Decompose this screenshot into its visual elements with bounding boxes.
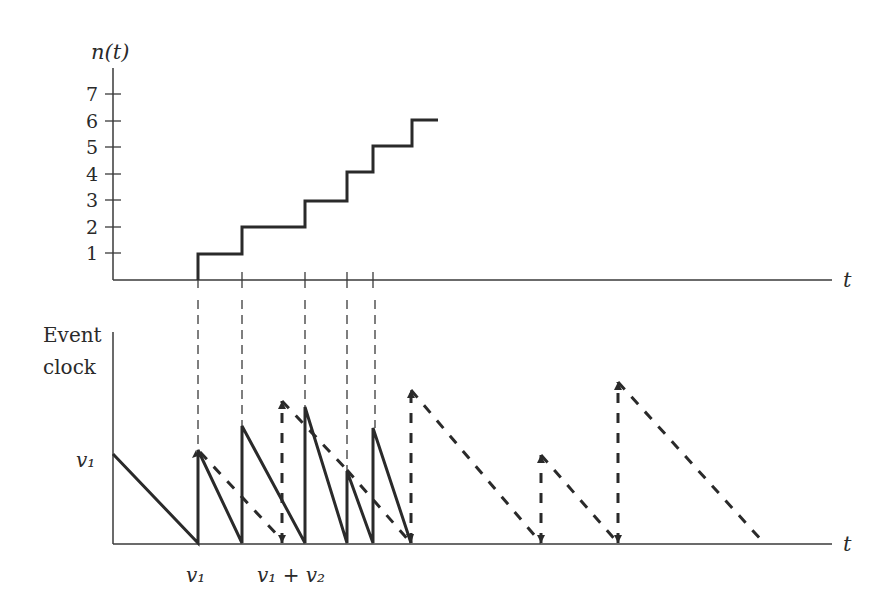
- top-x-axis-label: t: [843, 268, 852, 292]
- event-clock-diagram: 1 2 3 4 5 6 7 n(t) t Event clock v₁ t v₁…: [0, 0, 894, 607]
- ytick-label-7: 7: [86, 83, 98, 105]
- bottom-y-axis-label-line1: Event: [43, 323, 102, 347]
- x-label-v1-plus-v2: v₁ + v₂: [257, 563, 325, 587]
- arrow-down-icon: [278, 535, 286, 543]
- ytick-label-5: 5: [86, 136, 98, 158]
- bottom-x-axis-label: t: [843, 532, 852, 556]
- arrow-down-icon: [614, 535, 622, 543]
- diagram-canvas: 1 2 3 4 5 6 7 n(t) t Event clock v₁ t v₁…: [0, 0, 894, 607]
- top-chart: 1 2 3 4 5 6 7 n(t) t: [86, 40, 852, 292]
- ytick-label-3: 3: [86, 189, 98, 211]
- ytick-label-6: 6: [86, 110, 98, 132]
- residual-clock-dashed-curves: [200, 382, 764, 543]
- ytick-label-4: 4: [86, 163, 98, 185]
- x-label-v1: v₁: [186, 563, 205, 587]
- y-marker-v1: v₁: [76, 448, 95, 472]
- event-clock-solid-curve: [113, 407, 411, 543]
- event-connector-lines: [198, 300, 375, 471]
- n-t-step-curve: [198, 120, 438, 280]
- ytick-label-2: 2: [86, 216, 98, 238]
- arrowhead-icons: [192, 382, 622, 543]
- top-y-axis-label: n(t): [91, 40, 129, 64]
- bottom-y-axis-label-line2: clock: [43, 355, 97, 379]
- bottom-chart: Event clock v₁ t v₁ v₁ + v₂: [43, 323, 852, 587]
- ytick-label-1: 1: [86, 242, 98, 264]
- arrow-down-icon: [537, 535, 545, 543]
